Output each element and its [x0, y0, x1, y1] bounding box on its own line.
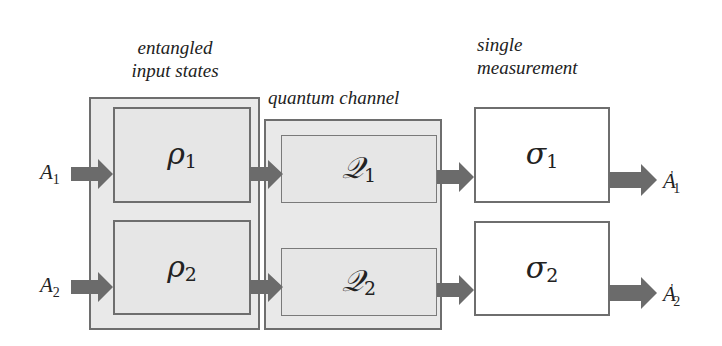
channel-to-measurement-arrow-2-icon	[437, 275, 474, 305]
channel-to-measurement-arrow-1-icon	[437, 162, 474, 192]
flow-arrows	[0, 0, 722, 346]
state-to-channel-arrow-1-icon	[250, 160, 283, 189]
input-arrow-a1-icon	[71, 159, 113, 189]
input-arrow-a2-icon	[71, 272, 113, 302]
output-label-a1-prime: A'1	[663, 168, 680, 196]
output-arrow-a2-icon	[609, 277, 657, 309]
input-label-a2: A2	[40, 275, 60, 300]
input-label-a1: A1	[40, 162, 60, 187]
output-arrow-a1-icon	[609, 164, 657, 196]
state-to-channel-arrow-2-icon	[250, 273, 283, 302]
output-label-a2-prime: A'2	[663, 281, 680, 309]
